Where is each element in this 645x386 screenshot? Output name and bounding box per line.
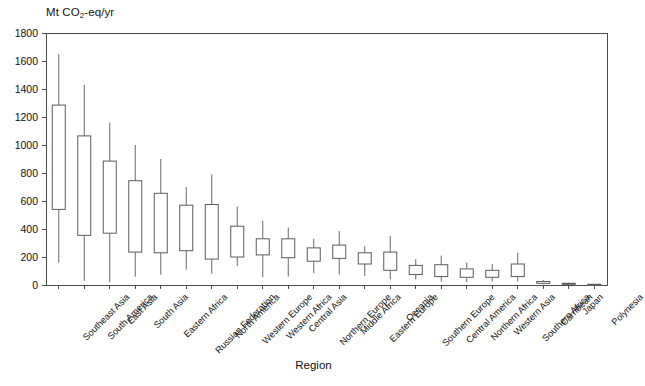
box-body bbox=[78, 136, 91, 235]
box-plot-item bbox=[129, 145, 142, 277]
box-plot-item bbox=[307, 239, 320, 273]
box-body bbox=[333, 245, 346, 258]
box-plot-item bbox=[486, 264, 499, 282]
box-series bbox=[52, 54, 601, 285]
box-body bbox=[562, 283, 575, 284]
box-body bbox=[180, 205, 193, 251]
box-plot-item bbox=[384, 236, 397, 279]
box-plot-item bbox=[511, 253, 524, 282]
box-body bbox=[205, 205, 218, 260]
box-plot-item bbox=[154, 159, 167, 275]
y-tick-label: 1200 bbox=[4, 111, 38, 123]
box-body bbox=[486, 270, 499, 277]
box-plot-item bbox=[537, 280, 550, 284]
box-plot-item bbox=[52, 54, 65, 263]
y-tick-label: 1000 bbox=[4, 139, 38, 151]
box-plot-item bbox=[180, 187, 193, 270]
box-body bbox=[358, 253, 371, 264]
box-plot-item bbox=[460, 263, 473, 283]
box-body bbox=[103, 161, 116, 233]
box-body bbox=[256, 239, 269, 255]
box-plot-item bbox=[256, 221, 269, 278]
box-body bbox=[435, 265, 448, 277]
box-body bbox=[231, 226, 244, 257]
box-plot-item bbox=[333, 231, 346, 274]
box-body bbox=[409, 265, 422, 274]
box-body bbox=[154, 193, 167, 253]
y-tick-label: 400 bbox=[4, 223, 38, 235]
box-plot-item bbox=[231, 207, 244, 267]
box-body bbox=[307, 248, 320, 261]
box-plot-item bbox=[103, 123, 116, 283]
y-tick-label: 600 bbox=[4, 195, 38, 207]
y-tick-label: 1600 bbox=[4, 55, 38, 67]
box-plot-item bbox=[205, 174, 218, 273]
box-plot-item bbox=[588, 284, 601, 285]
box-body bbox=[588, 284, 601, 285]
box-plot-item bbox=[282, 228, 295, 277]
y-tick-label: 0 bbox=[4, 279, 38, 291]
y-tick-label: 1800 bbox=[4, 27, 38, 39]
box-plot-item bbox=[562, 283, 575, 285]
box-body bbox=[460, 269, 473, 277]
box-plot-item bbox=[409, 259, 422, 279]
box-plot-item bbox=[78, 85, 91, 281]
box-body bbox=[52, 105, 65, 209]
box-body bbox=[384, 252, 397, 270]
box-plot-item bbox=[358, 246, 371, 276]
box-body bbox=[537, 282, 550, 284]
y-tick-label: 800 bbox=[4, 167, 38, 179]
box-body bbox=[511, 264, 524, 277]
box-body bbox=[282, 239, 295, 258]
box-body bbox=[129, 181, 142, 252]
box-plot-item bbox=[435, 256, 448, 282]
y-tick-label: 1400 bbox=[4, 83, 38, 95]
x-axis-title: Region bbox=[0, 359, 627, 371]
y-tick-label: 200 bbox=[4, 251, 38, 263]
